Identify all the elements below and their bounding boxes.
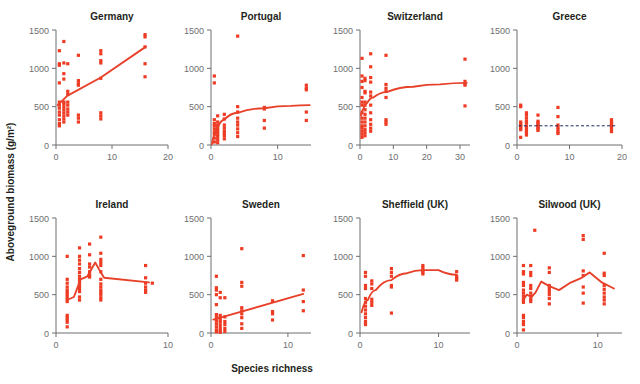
- data-point: [99, 261, 102, 264]
- data-point: [143, 35, 146, 38]
- y-tick-label: 1500: [333, 26, 353, 36]
- data-point: [144, 285, 147, 288]
- data-point: [536, 129, 539, 132]
- data-point: [62, 77, 65, 80]
- data-point: [62, 72, 65, 75]
- panel-title: Sweden: [242, 199, 280, 210]
- y-tick-label: 1000: [184, 252, 204, 262]
- data-point: [369, 81, 372, 84]
- data-point: [263, 119, 266, 122]
- x-tick-label: 10: [564, 152, 574, 162]
- data-point: [88, 253, 91, 256]
- multi-panel-scatter-figure: Germany05001000150001020Portugal05001000…: [0, 0, 640, 384]
- x-tick-label: 10: [273, 152, 283, 162]
- data-point: [58, 118, 61, 121]
- data-point: [78, 275, 81, 278]
- data-point: [99, 282, 102, 285]
- data-point: [99, 49, 102, 52]
- data-point: [305, 88, 308, 91]
- data-point: [213, 74, 216, 77]
- data-point: [363, 117, 366, 120]
- x-tick-label: 10: [434, 340, 444, 350]
- y-tick-label: 1000: [184, 64, 204, 74]
- data-point: [88, 242, 91, 245]
- axis-lines: [211, 30, 311, 145]
- data-point: [384, 96, 387, 99]
- data-point: [369, 104, 372, 107]
- data-point: [219, 324, 222, 327]
- data-point: [62, 105, 65, 108]
- panels-layer: Germany05001000150001020Portugal05001000…: [29, 11, 627, 350]
- data-point: [370, 282, 373, 285]
- data-point: [236, 127, 239, 130]
- x-tick-label: 20: [617, 152, 627, 162]
- panel-switzerland: Switzerland0500100015000102030: [333, 11, 470, 162]
- data-point: [369, 91, 372, 94]
- data-point: [582, 302, 585, 305]
- data-point: [522, 323, 525, 326]
- data-point: [215, 288, 218, 291]
- data-point: [99, 236, 102, 239]
- data-point: [302, 288, 305, 291]
- data-point: [369, 123, 372, 126]
- data-point: [236, 35, 239, 38]
- data-point: [219, 331, 222, 334]
- data-point: [62, 102, 65, 105]
- data-point: [364, 287, 367, 290]
- data-point: [215, 330, 218, 333]
- data-point: [360, 120, 363, 123]
- y-tick-label: 500: [495, 102, 510, 112]
- data-point: [240, 306, 243, 309]
- data-point: [360, 136, 363, 139]
- data-point: [305, 110, 308, 113]
- data-point: [390, 285, 393, 288]
- y-tick-label: 1000: [490, 252, 510, 262]
- data-point: [302, 300, 305, 303]
- data-point: [463, 84, 466, 87]
- panel-title: Germany: [90, 11, 134, 22]
- x-tick-label: 0: [514, 152, 519, 162]
- y-tick-label: 1500: [29, 26, 49, 36]
- data-point: [455, 279, 458, 282]
- data-point: [302, 254, 305, 257]
- data-point: [66, 100, 69, 103]
- data-point: [219, 296, 222, 299]
- data-point: [390, 271, 393, 274]
- y-tick-label: 0: [44, 329, 49, 339]
- x-tick-label: 0: [208, 152, 213, 162]
- data-point: [522, 284, 525, 287]
- y-tick-label: 0: [348, 141, 353, 151]
- y-tick-label: 0: [44, 141, 49, 151]
- data-point: [99, 114, 102, 117]
- panel-title: Greece: [553, 11, 587, 22]
- axis-lines: [517, 30, 622, 145]
- data-point: [62, 117, 65, 120]
- data-point: [99, 258, 102, 261]
- data-point: [363, 124, 366, 127]
- y-tick-label: 1000: [29, 252, 49, 262]
- y-tick-label: 0: [505, 141, 510, 151]
- data-point: [603, 274, 606, 277]
- data-point: [215, 293, 218, 296]
- data-point: [302, 309, 305, 312]
- data-point: [529, 300, 532, 303]
- data-point: [78, 267, 81, 270]
- data-point: [525, 133, 528, 136]
- y-tick-label: 0: [505, 329, 510, 339]
- data-point: [58, 110, 61, 113]
- data-point: [360, 117, 363, 120]
- data-point: [556, 132, 559, 135]
- x-tick-label: 0: [208, 340, 213, 350]
- data-point: [236, 135, 239, 138]
- data-point: [610, 130, 613, 133]
- data-point: [215, 313, 218, 316]
- data-point: [271, 312, 274, 315]
- data-point: [363, 128, 366, 131]
- data-point: [603, 252, 606, 255]
- y-tick-label: 1000: [29, 64, 49, 74]
- data-point: [62, 108, 65, 111]
- panel-sweden: Sweden050010001500010: [184, 199, 311, 350]
- y-tick-label: 1000: [333, 252, 353, 262]
- data-point: [215, 322, 218, 325]
- x-tick-label: 0: [53, 152, 58, 162]
